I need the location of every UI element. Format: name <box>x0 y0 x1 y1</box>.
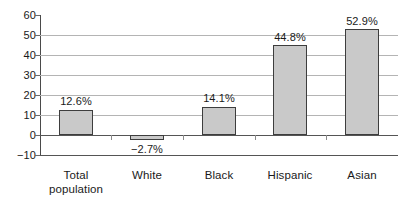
y-tick-label-30: 30 <box>0 70 36 81</box>
y-tick-label-neg10: −10 <box>0 150 36 161</box>
y-tick-label-40: 40 <box>0 50 36 61</box>
bar-label-black: 14.1% <box>189 93 249 104</box>
x-tick-mark-1 <box>111 135 112 140</box>
y-axis-line <box>40 15 41 155</box>
x-axis-category-labels: Total population White Black Hispanic As… <box>40 168 398 208</box>
gridline-bottom <box>40 155 398 156</box>
bar-hispanic <box>273 45 307 135</box>
bar-black <box>202 107 236 135</box>
y-tick-label-60: 60 <box>0 10 36 21</box>
y-tick-label-10: 10 <box>0 110 36 121</box>
bar-white <box>130 135 164 140</box>
bar-total-population <box>59 110 93 135</box>
bar-chart: 60 50 40 30 20 10 0 −10 12.6 <box>0 0 415 209</box>
category-label-hispanic: Hispanic <box>260 168 320 182</box>
y-axis-labels: 60 50 40 30 20 10 0 −10 <box>0 0 36 209</box>
category-label-asian: Asian <box>332 168 392 182</box>
y-tick-label-20: 20 <box>0 90 36 101</box>
category-label-black: Black <box>189 168 249 182</box>
bar-asian <box>345 29 379 135</box>
y-tick-label-50: 50 <box>0 30 36 41</box>
y-tick-label-0: 0 <box>0 130 36 141</box>
x-tick-mark-3 <box>255 135 256 140</box>
y-tick-mark-60 <box>35 15 40 16</box>
plot-area: 12.6% −2.7% 14.1% 44.8% 52.9% <box>40 15 398 155</box>
bar-label-total-population: 12.6% <box>46 96 106 107</box>
bar-label-asian: 52.9% <box>332 16 392 27</box>
bar-label-white: −2.7% <box>117 144 177 155</box>
category-label-white: White <box>117 168 177 182</box>
x-tick-mark-4 <box>326 135 327 140</box>
x-tick-mark-2 <box>183 135 184 140</box>
bar-label-hispanic: 44.8% <box>260 32 320 43</box>
category-label-total-population: Total population <box>46 168 106 196</box>
gridline-zero <box>40 135 398 136</box>
